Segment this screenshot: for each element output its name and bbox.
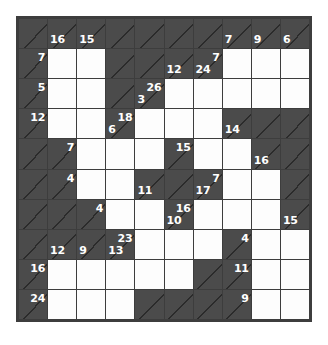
across-clue: 4 bbox=[241, 233, 248, 244]
across-clue: 15 bbox=[176, 142, 191, 153]
entry-cell[interactable] bbox=[106, 200, 134, 229]
clue-cell: 724 bbox=[194, 49, 222, 78]
clue-cell bbox=[48, 200, 76, 229]
clue-cell: 4 bbox=[48, 170, 76, 199]
across-clue: 23 bbox=[117, 233, 132, 244]
clue-cell bbox=[165, 170, 193, 199]
clue-cell bbox=[135, 49, 163, 78]
across-clue: 18 bbox=[117, 112, 132, 123]
entry-cell[interactable] bbox=[135, 109, 163, 138]
entry-cell[interactable] bbox=[135, 260, 163, 289]
entry-cell[interactable] bbox=[165, 79, 193, 108]
entry-cell[interactable] bbox=[194, 109, 222, 138]
entry-cell[interactable] bbox=[135, 139, 163, 168]
entry-cell[interactable] bbox=[48, 109, 76, 138]
clue-cell bbox=[281, 139, 309, 168]
entry-cell[interactable] bbox=[135, 230, 163, 259]
entry-cell[interactable] bbox=[77, 79, 105, 108]
entry-cell[interactable] bbox=[77, 290, 105, 319]
clue-cell: 11 bbox=[135, 170, 163, 199]
entry-cell[interactable] bbox=[194, 200, 222, 229]
clue-cell bbox=[194, 260, 222, 289]
entry-cell[interactable] bbox=[194, 139, 222, 168]
down-clue: 24 bbox=[196, 64, 211, 75]
entry-cell[interactable] bbox=[77, 49, 105, 78]
across-clue: 7 bbox=[212, 52, 219, 63]
down-clue: 9 bbox=[254, 34, 261, 45]
down-clue: 13 bbox=[108, 245, 123, 256]
clue-cell: 15 bbox=[77, 19, 105, 48]
entry-cell[interactable] bbox=[165, 260, 193, 289]
down-clue: 16 bbox=[254, 155, 269, 166]
clue-cell bbox=[281, 170, 309, 199]
clue-cell bbox=[135, 19, 163, 48]
entry-cell[interactable] bbox=[48, 290, 76, 319]
clue-cell bbox=[106, 79, 134, 108]
entry-cell[interactable] bbox=[48, 49, 76, 78]
across-clue: 7 bbox=[67, 142, 74, 153]
entry-cell[interactable] bbox=[252, 200, 280, 229]
entry-cell[interactable] bbox=[281, 230, 309, 259]
clue-cell bbox=[106, 19, 134, 48]
entry-cell[interactable] bbox=[281, 49, 309, 78]
across-clue: 16 bbox=[176, 203, 191, 214]
down-clue: 15 bbox=[283, 215, 298, 226]
clue-cell: 7 bbox=[48, 139, 76, 168]
clue-cell: 9 bbox=[223, 290, 251, 319]
across-clue: 24 bbox=[30, 293, 45, 304]
entry-cell[interactable] bbox=[281, 260, 309, 289]
clue-cell: 12 bbox=[165, 49, 193, 78]
across-clue: 4 bbox=[96, 203, 103, 214]
entry-cell[interactable] bbox=[77, 170, 105, 199]
clue-cell: 14 bbox=[223, 109, 251, 138]
across-clue: 16 bbox=[30, 263, 45, 274]
entry-cell[interactable] bbox=[165, 109, 193, 138]
entry-cell[interactable] bbox=[106, 170, 134, 199]
entry-cell[interactable] bbox=[106, 290, 134, 319]
entry-cell[interactable] bbox=[223, 200, 251, 229]
entry-cell[interactable] bbox=[77, 260, 105, 289]
down-clue: 7 bbox=[225, 34, 232, 45]
clue-cell bbox=[106, 49, 134, 78]
entry-cell[interactable] bbox=[252, 230, 280, 259]
clue-cell bbox=[135, 290, 163, 319]
clue-cell: 12 bbox=[48, 230, 76, 259]
entry-cell[interactable] bbox=[135, 200, 163, 229]
across-clue: 9 bbox=[241, 293, 248, 304]
entry-cell[interactable] bbox=[48, 260, 76, 289]
entry-cell[interactable] bbox=[281, 290, 309, 319]
entry-cell[interactable] bbox=[194, 230, 222, 259]
entry-cell[interactable] bbox=[223, 49, 251, 78]
entry-cell[interactable] bbox=[77, 139, 105, 168]
clue-cell: 186 bbox=[106, 109, 134, 138]
entry-cell[interactable] bbox=[165, 230, 193, 259]
kakuro-puzzle: 1615796712724526312186147151641171741610… bbox=[16, 16, 312, 322]
clue-cell: 24 bbox=[19, 290, 47, 319]
entry-cell[interactable] bbox=[252, 170, 280, 199]
across-clue: 7 bbox=[38, 52, 45, 63]
clue-cell: 16 bbox=[19, 260, 47, 289]
entry-cell[interactable] bbox=[77, 109, 105, 138]
down-clue: 16 bbox=[50, 34, 65, 45]
clue-cell: 16 bbox=[252, 139, 280, 168]
entry-cell[interactable] bbox=[252, 290, 280, 319]
entry-cell[interactable] bbox=[223, 139, 251, 168]
clue-cell bbox=[19, 19, 47, 48]
clue-cell: 11 bbox=[223, 260, 251, 289]
clue-cell bbox=[165, 19, 193, 48]
entry-cell[interactable] bbox=[281, 79, 309, 108]
entry-cell[interactable] bbox=[252, 49, 280, 78]
entry-cell[interactable] bbox=[252, 79, 280, 108]
entry-cell[interactable] bbox=[223, 170, 251, 199]
entry-cell[interactable] bbox=[252, 260, 280, 289]
entry-cell[interactable] bbox=[223, 79, 251, 108]
clue-cell: 4 bbox=[223, 230, 251, 259]
entry-cell[interactable] bbox=[106, 139, 134, 168]
entry-cell[interactable] bbox=[106, 260, 134, 289]
clue-cell bbox=[281, 109, 309, 138]
entry-cell[interactable] bbox=[194, 79, 222, 108]
across-clue: 7 bbox=[212, 173, 219, 184]
across-clue: 11 bbox=[234, 263, 249, 274]
down-clue: 10 bbox=[167, 215, 182, 226]
entry-cell[interactable] bbox=[48, 79, 76, 108]
